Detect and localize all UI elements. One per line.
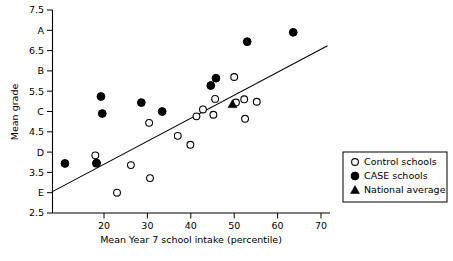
x-axis: 203040506070 Mean Year 7 school intake (… [53,213,331,245]
x-tick-label: 40 [185,220,197,231]
x-tick-label: 20 [98,220,110,231]
x-axis-ticks [104,213,321,219]
data-point-open-circle [253,98,260,105]
data-point-open-circle [147,175,154,182]
scatter-chart-figure: 2.5E3.5D4.5C5.5B6.5A7.5 Mean grade 20304… [0,0,453,261]
data-point-filled-circle [212,74,220,82]
y-tick-label: E [38,187,44,198]
x-tick-label: 70 [315,220,327,231]
data-point-open-circle [128,162,135,169]
data-point-open-circle [210,111,217,118]
x-tick-label: 60 [272,220,284,231]
data-point-filled-circle [207,82,215,90]
x-tick-label: 50 [228,220,240,231]
data-points-layer [61,28,297,196]
y-axis-tick-labels: 2.5E3.5D4.5C5.5B6.5A7.5 [29,4,45,218]
data-point-filled-circle [97,93,105,101]
data-point-open-circle [114,189,121,196]
y-tick-label: 5.5 [29,86,44,97]
y-axis-ticks [47,10,53,213]
data-point-filled-circle [158,108,166,116]
y-axis-title: Mean grade [9,84,20,141]
legend-item-label: CASE schools [364,170,428,181]
y-tick-label: 7.5 [29,4,44,15]
data-point-open-circle [200,106,207,113]
legend-item-label: National average [364,184,446,195]
data-point-open-circle [193,113,200,120]
data-point-open-circle [92,152,99,159]
data-point-filled-circle [61,160,69,168]
y-tick-label: A [38,25,45,36]
series-case-schools [61,28,297,167]
legend-marker-open-circle [352,159,359,166]
data-point-open-circle [187,141,194,148]
legend: Control schoolsCASE schoolsNational aver… [343,152,447,202]
y-tick-label: B [37,65,44,76]
y-tick-label: D [37,147,44,158]
data-point-open-circle [212,96,219,103]
y-tick-label: 2.5 [29,207,44,218]
regression-line [52,46,328,192]
data-point-filled-circle [289,28,297,36]
data-point-open-circle [241,96,248,103]
y-tick-label: C [37,106,44,117]
data-point-filled-circle [98,110,106,118]
data-point-filled-circle [93,159,101,167]
x-axis-tick-labels: 203040506070 [98,220,327,231]
data-point-open-circle [174,132,181,139]
chart-canvas: 2.5E3.5D4.5C5.5B6.5A7.5 Mean grade 20304… [0,0,453,261]
y-tick-label: 4.5 [29,126,44,137]
x-axis-title: Mean Year 7 school intake (percentile) [100,234,282,245]
legend-item-label: Control schools [364,156,437,167]
data-point-open-circle [242,115,249,122]
y-axis: 2.5E3.5D4.5C5.5B6.5A7.5 Mean grade [9,4,53,218]
y-tick-label: 3.5 [29,167,44,178]
x-tick-label: 30 [141,220,153,231]
data-point-open-circle [231,74,238,81]
legend-marker-filled-circle [351,172,359,180]
data-point-open-circle [146,119,153,126]
data-point-filled-circle [243,38,251,46]
series-control-schools [92,74,260,197]
y-tick-label: 6.5 [29,45,44,56]
trend-line [52,46,328,192]
data-point-filled-circle [137,99,145,107]
